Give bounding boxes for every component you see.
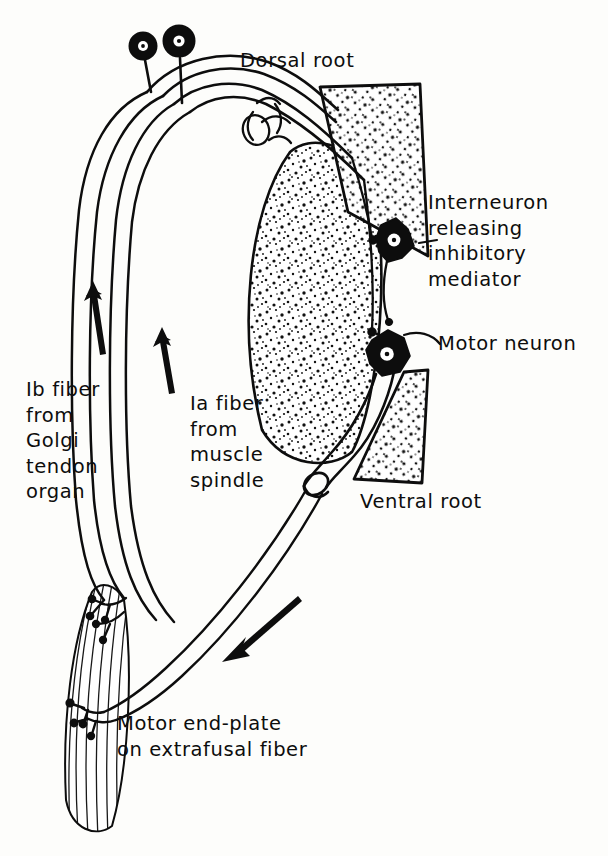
ia-fiber-path <box>110 104 190 622</box>
label-ventral-root: Ventral root <box>360 489 482 515</box>
label-interneuron-releasing-inhibitory-mediator: Interneuron releasing inhibitory mediato… <box>428 190 549 292</box>
arrow-ib-afferent <box>84 281 106 355</box>
dorsal-root-ganglion-cell-left <box>130 33 157 93</box>
dorsal-root-fascicle-segments <box>239 98 291 148</box>
label-dorsal-root: Dorsal root <box>240 48 354 74</box>
arrow-ia-afferent <box>153 327 175 394</box>
label-motor-end-plate-on-extrafusal-fiber: Motor end-plate on extrafusal fiber <box>117 711 307 762</box>
reflex-arc-figure: Dorsal root Interneuron releasing inhibi… <box>0 0 608 856</box>
arrow-efferent <box>222 596 302 662</box>
label-motor-neuron: Motor neuron <box>438 331 576 357</box>
label-ia-fiber-from-muscle-spindle: Ia fiber from muscle spindle <box>190 391 264 493</box>
label-ib-fiber-from-golgi-tendon-organ: Ib fiber from Golgi tendon organ <box>26 377 100 505</box>
